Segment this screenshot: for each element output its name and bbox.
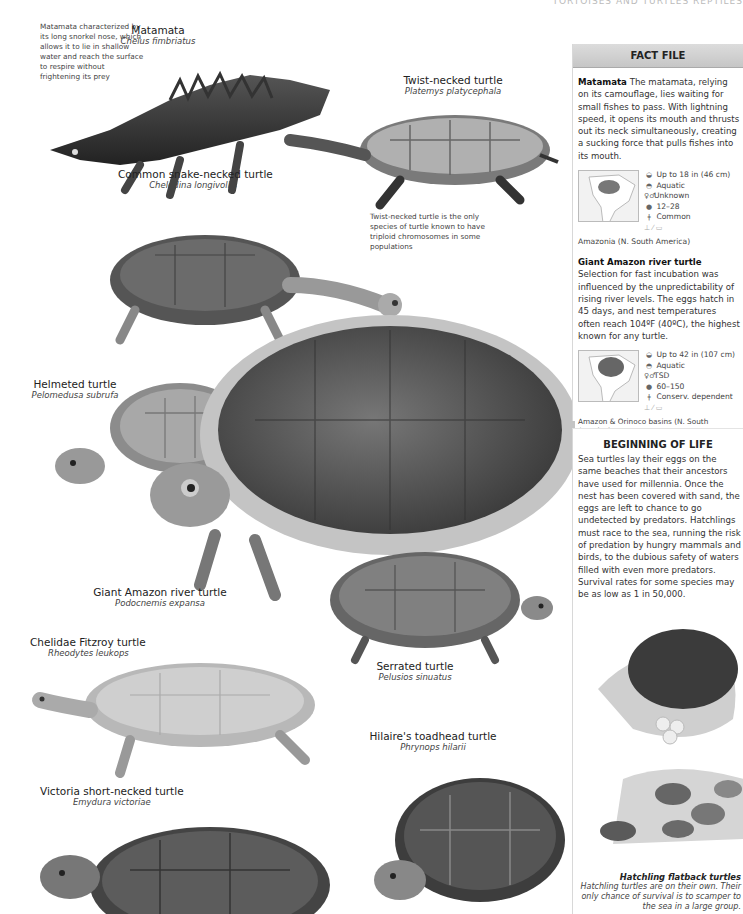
beginning-of-life-panel: BEGINNING OF LIFE Sea turtles lay their … xyxy=(572,428,743,914)
twist-necked-turtle-illustration xyxy=(270,100,560,210)
hatchling-caption-text: Hatchling turtles are on their own. Thei… xyxy=(576,882,741,912)
egg-icon: ● xyxy=(644,382,654,393)
fact-file-panel: FACT FILE Matamata The matamata, relying… xyxy=(572,44,743,421)
fact-file-title: FACT FILE xyxy=(573,44,743,68)
common-name: Chelidae Fitzroy turtle xyxy=(30,636,150,648)
label-victoria: Victoria short-necked turtle Emydura vic… xyxy=(40,785,184,807)
common-name: Matamata xyxy=(118,24,198,36)
sex-icon: ♀♂ xyxy=(644,191,654,202)
size-icon: ◒ xyxy=(644,170,654,181)
hatchling-turtles-illustration xyxy=(573,759,743,849)
common-name: Twist-necked turtle xyxy=(388,74,518,86)
label-matamata: Matamata Chelus fimbriatus xyxy=(118,24,198,46)
status-icon: ǂ xyxy=(644,212,654,223)
fact-entry-giant-amazon: Giant Amazon river turtle Selection for … xyxy=(573,256,743,342)
label-snake-necked: Common snake-necked turtle Chelodina lon… xyxy=(118,168,268,190)
hilaire-toadhead-turtle-illustration xyxy=(360,770,570,914)
status-icon: ǂ xyxy=(644,392,654,403)
habitat-icon: ◓ xyxy=(644,181,654,192)
terrain-icons: ⊥ ⁄ ▭ xyxy=(644,223,662,234)
hatchling-caption: Hatchling flatback turtles Hatchling tur… xyxy=(576,872,741,912)
south-america-map-icon xyxy=(579,171,639,222)
stat-sex: Unknown xyxy=(654,191,689,200)
victoria-short-necked-turtle-illustration xyxy=(30,815,350,914)
stats-list: ◒ Up to 42 in (107 cm) ◓ Aquatic ♀♂TSD ●… xyxy=(644,350,735,413)
entry-text: Selection for fast incubation was influe… xyxy=(578,269,740,340)
stat-status: Common xyxy=(656,212,690,221)
entry-text: The matamata, relying on its camouflage,… xyxy=(578,77,739,161)
scientific-name: Phrynops hilarii xyxy=(368,742,498,752)
serrated-turtle-illustration xyxy=(315,540,555,665)
stat-habitat: Aquatic xyxy=(656,181,685,190)
common-name: Common snake-necked turtle xyxy=(118,168,268,180)
label-serrated: Serrated turtle Pelusios sinuatus xyxy=(360,660,470,682)
label-twist-necked: Twist-necked turtle Platemys platycephal… xyxy=(388,74,518,96)
stats-list: ◒ Up to 18 in (46 cm) ◓ Aquatic ♀♂Unknow… xyxy=(644,170,730,233)
fact-stats-matamata: ◒ Up to 18 in (46 cm) ◓ Aquatic ♀♂Unknow… xyxy=(578,170,743,233)
running-header: TORTOISES AND TURTLES REPTILES xyxy=(543,0,743,8)
stat-sex: TSD xyxy=(654,371,669,380)
label-giant-amazon: Giant Amazon river turtle Podocnemis exp… xyxy=(80,586,240,608)
common-name: Victoria short-necked turtle xyxy=(40,785,184,797)
fitzroy-turtle-illustration xyxy=(20,655,340,780)
scientific-name: Emydura victoriae xyxy=(40,797,184,807)
stat-eggs: 12–28 xyxy=(656,202,679,211)
stat-habitat: Aquatic xyxy=(656,361,685,370)
scientific-name: Podocnemis expansa xyxy=(80,598,240,608)
scientific-name: Chelodina longivollis xyxy=(118,180,268,190)
entry-name: Matamata xyxy=(578,77,627,87)
size-icon: ◒ xyxy=(644,350,654,361)
habitat-icon: ◓ xyxy=(644,361,654,372)
range-map-amazon-orinoco xyxy=(578,350,639,402)
range-caption: Amazonia (N. South America) xyxy=(578,237,743,246)
common-name: Serrated turtle xyxy=(360,660,470,672)
fact-stats-giant-amazon: ◒ Up to 42 in (107 cm) ◓ Aquatic ♀♂TSD ●… xyxy=(578,350,743,413)
nesting-turtle-illustration xyxy=(593,609,743,759)
stat-status: Conserv. dependent xyxy=(656,392,732,401)
hatchling-caption-title: Hatchling flatback turtles xyxy=(576,872,741,882)
sex-icon: ♀♂ xyxy=(644,371,654,382)
stat-size: Up to 18 in (46 cm) xyxy=(656,170,730,179)
terrain-icons: ⊥ ⁄ ▭ xyxy=(644,403,662,414)
stat-eggs: 60–150 xyxy=(656,382,684,391)
common-name: Giant Amazon river turtle xyxy=(80,586,240,598)
beginning-of-life-text: Sea turtles lay their eggs on the same b… xyxy=(573,453,743,601)
scientific-name: Pelusios sinuatus xyxy=(360,672,470,682)
scientific-name: Platemys platycephala xyxy=(388,86,518,96)
stat-size: Up to 42 in (107 cm) xyxy=(656,350,735,359)
scientific-name: Chelus fimbriatus xyxy=(118,36,198,46)
label-hilaire: Hilaire's toadhead turtle Phrynops hilar… xyxy=(368,730,498,752)
common-name: Hilaire's toadhead turtle xyxy=(368,730,498,742)
entry-name: Giant Amazon river turtle xyxy=(578,257,702,267)
egg-icon: ● xyxy=(644,202,654,213)
fact-entry-matamata: Matamata The matamata, relying on its ca… xyxy=(573,76,743,162)
range-map-amazonia xyxy=(578,170,639,222)
south-america-map-icon xyxy=(579,351,639,402)
beginning-of-life-title: BEGINNING OF LIFE xyxy=(573,439,743,450)
